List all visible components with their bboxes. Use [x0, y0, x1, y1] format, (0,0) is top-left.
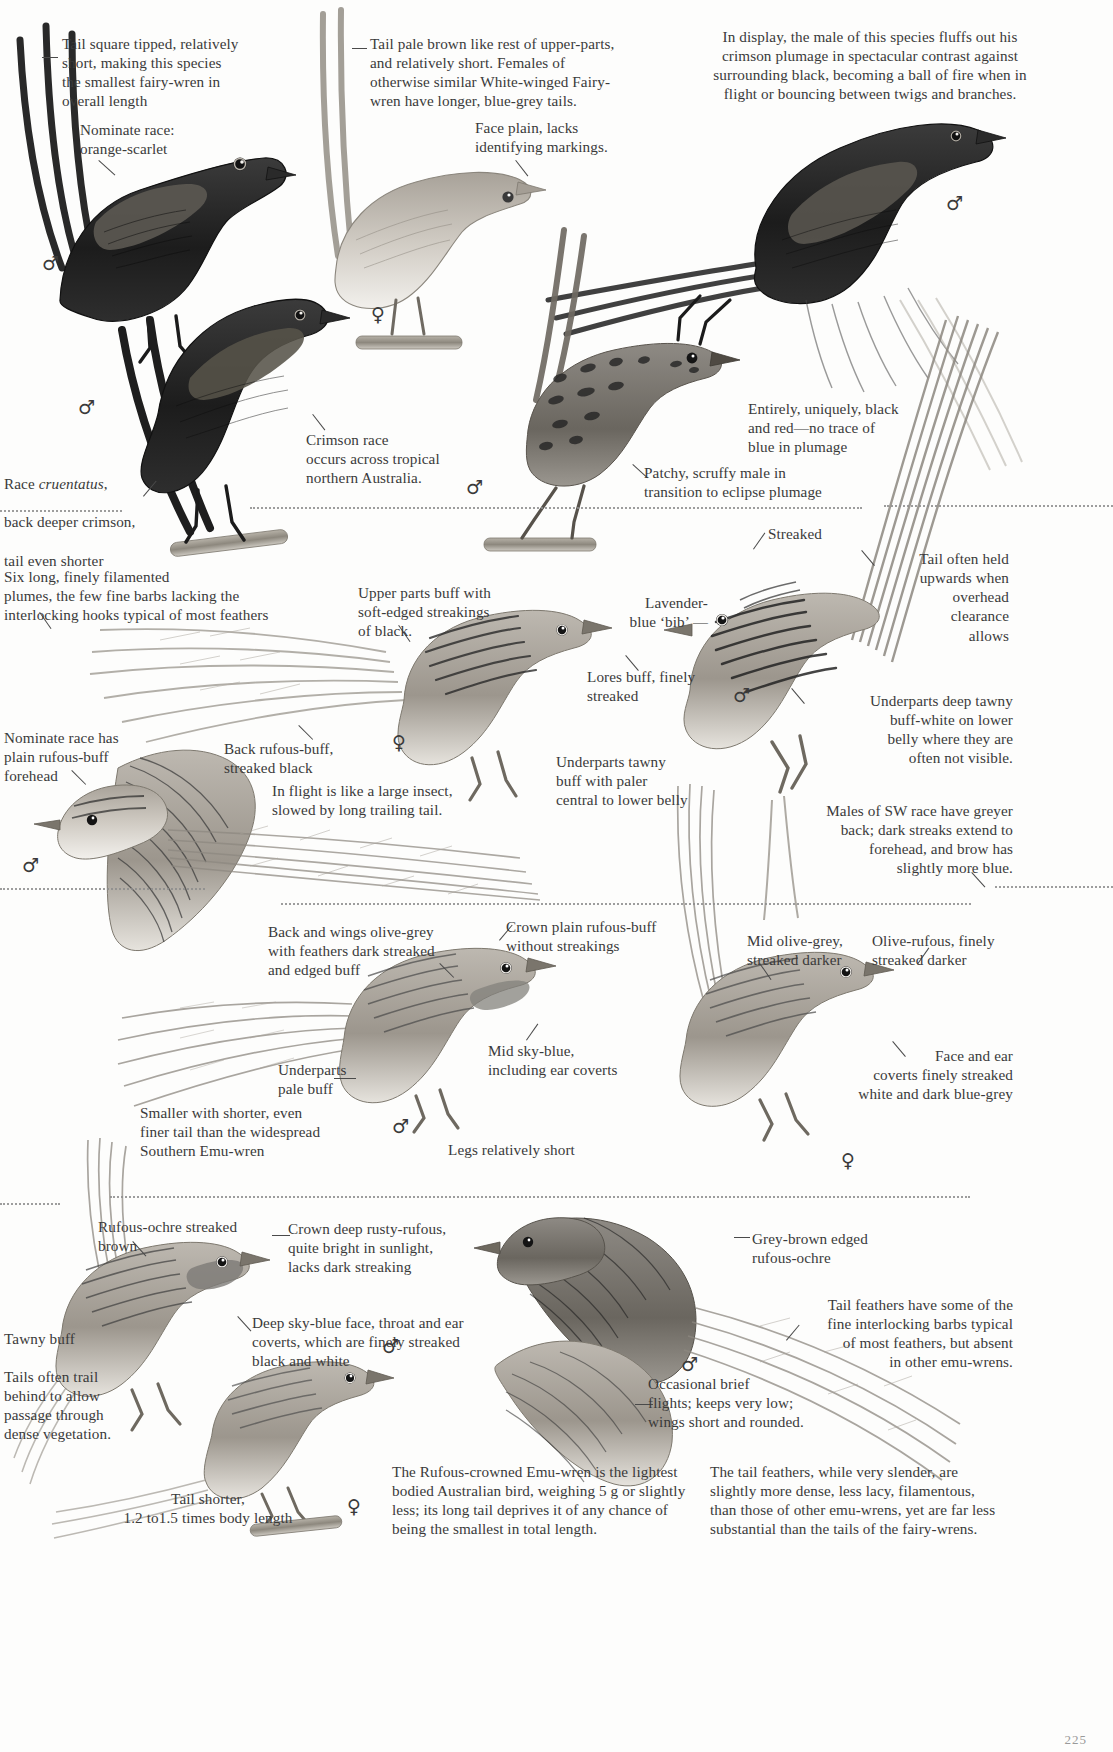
caption-tail-square-tipped: Tail square tipped, relatively short, ma…: [62, 34, 312, 111]
caption-crown-plain-rufous-buff: Crown plain rufous-buff without streakin…: [506, 917, 721, 955]
band-separator: [110, 1196, 970, 1198]
caption-back-rufous-buff: Back rufous-buff, streaked black: [224, 739, 399, 777]
caption-tail-feathers-interlocking: Tail feathers have some of the fine inte…: [800, 1295, 1013, 1372]
caption-grey-brown-edged: Grey-brown edged rufous-ochre: [752, 1229, 932, 1267]
caption-males-sw-race: Males of SW race have greyer back; dark …: [788, 801, 1013, 878]
caption-back-wings-olive-grey: Back and wings olive-grey with feathers …: [268, 922, 503, 979]
sex-symbol-female-southern-emu-wren: ♀: [841, 1151, 855, 1170]
page-number: 225: [1065, 1732, 1088, 1748]
sex-symbol-male-flight-emu-wren: ♂: [22, 856, 39, 875]
sex-symbol-male-rufous-crowned-2: ♂: [382, 1337, 399, 1356]
sex-symbol-male-southern-emu-wren: ♂: [392, 1117, 409, 1136]
caption-race-cruentatus: Race cruentatus, back deeper crimson, ta…: [4, 455, 209, 570]
sex-symbol-female-white-winged: ♀: [371, 305, 385, 324]
caption-olive-rufous: Olive-rufous, finely streaked darker: [872, 931, 1042, 969]
caption-upper-parts-buff: Upper parts buff with soft-edged streaki…: [358, 583, 558, 640]
caption-race-cruentatus-line2: back deeper crimson,: [4, 513, 135, 530]
sex-symbol-male-crimson-display: ♂: [946, 194, 963, 213]
caption-underparts-tawny-buff: Underparts tawny buff with paler central…: [556, 752, 761, 809]
caption-tail-shorter: Tail shorter, 1.2 to1.5 times body lengt…: [88, 1489, 328, 1527]
caption-tail-often-held-upwards: Tail often held upwards when overhead cl…: [872, 549, 1009, 645]
sex-symbol-male-mallee-emu-wren: ♂: [733, 686, 750, 705]
caption-nominate-race-orange-scarlet: Nominate race: orange-scarlet: [80, 120, 270, 158]
band-separator: [250, 507, 862, 509]
caption-crown-deep-rusty-rufous: Crown deep rusty-rufous, quite bright in…: [288, 1219, 508, 1276]
caption-entirely-black-red: Entirely, uniquely, black and red—no tra…: [748, 399, 973, 456]
caption-tail-feathers-slender: The tail feathers, while very slender, a…: [710, 1462, 1018, 1539]
band-separator: [0, 1203, 60, 1205]
caption-legs-relatively-short: Legs relatively short: [448, 1140, 633, 1159]
caption-streaked: Streaked: [768, 524, 868, 543]
field-guide-plate: Tail square tipped, relatively short, ma…: [0, 0, 1113, 1752]
caption-rufous-ochre-streaked: Rufous-ochre streaked brown: [98, 1217, 293, 1255]
caption-in-display-male: In display, the male of this species flu…: [660, 27, 1080, 104]
band-separator: [884, 505, 1113, 507]
sex-symbol-female-rufous-crowned: ♀: [392, 733, 406, 752]
band-separator: [0, 888, 205, 890]
caption-six-long-plumes: Six long, finely filamented plumes, the …: [4, 567, 349, 624]
caption-patchy-scruffy: Patchy, scruffy male in transition to ec…: [644, 463, 914, 501]
sex-symbol-male-eclipse: ♂: [466, 478, 483, 497]
caption-face-plain: Face plain, lacks identifying markings.: [475, 118, 665, 156]
caption-tawny-buff: Tawny buff: [4, 1329, 129, 1348]
caption-underparts-deep-tawny: Underparts deep tawny buff-white on lowe…: [800, 691, 1013, 768]
caption-rufous-crowned-lightest: The Rufous-crowned Emu-wren is the light…: [392, 1462, 697, 1539]
caption-occasional-brief-flights: Occasional brief flights; keeps very low…: [648, 1374, 878, 1431]
caption-smaller-shorter-tail: Smaller with shorter, even finer tail th…: [140, 1103, 380, 1160]
caption-face-ear-coverts-streaked: Face and ear coverts finely streaked whi…: [810, 1046, 1013, 1103]
band-separator: [281, 903, 971, 905]
sex-symbol-male-flight-rufous: ♂: [681, 1355, 698, 1374]
leader-line: [734, 1237, 750, 1238]
leader-line: [42, 57, 58, 58]
caption-lores-buff: Lores buff, finely streaked: [587, 667, 757, 705]
figure-red-backed-fairy-wren-male-eclipse: [484, 230, 740, 551]
sex-symbol-male-red-backed-left: ♂: [42, 254, 59, 273]
caption-in-flight-large-insect: In flight is like a large insect, slowed…: [272, 781, 527, 819]
leader-line: [352, 48, 367, 49]
caption-underparts-pale-buff: Underparts pale buff: [278, 1060, 393, 1098]
caption-tail-pale-brown: Tail pale brown like rest of upper-parts…: [370, 34, 620, 111]
caption-race-cruentatus-line1: Race cruentatus,: [4, 475, 108, 492]
caption-crimson-race-tropical: Crimson race occurs across tropical nort…: [306, 430, 521, 487]
sex-symbol-female-bottom: ♀: [347, 1497, 361, 1516]
caption-lavender-blue-bib: Lavender- blue ‘bib’ —: [596, 593, 708, 631]
caption-nominate-race-plain-forehead: Nominate race has plain rufous-buff fore…: [4, 728, 174, 785]
sex-symbol-male-cruentatus: ♂: [78, 398, 95, 417]
caption-tails-often-trail: Tails often trail behind to allow passag…: [4, 1367, 154, 1444]
band-separator: [995, 886, 1113, 888]
caption-mid-sky-blue: Mid sky-blue, including ear coverts: [488, 1041, 678, 1079]
